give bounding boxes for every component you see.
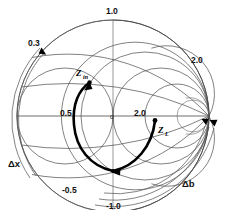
delta-b-label: Δb — [182, 178, 195, 189]
reactance-arc-0.3 — [22, 84, 209, 116]
trajectory-segment-bottom-to-input — [74, 83, 113, 171]
tick-label-2.0-right: 2.0 — [191, 55, 203, 65]
smith-chart-canvas: o 0.3 1.0 2.0 0.5 2.0 -0.5 -1.0 Z in Z L… — [0, 0, 230, 210]
z-l-label-subscript: L — [164, 131, 169, 137]
delta-b-arrowhead-outer — [210, 120, 218, 127]
tick-label-1.0: 1.0 — [106, 6, 118, 16]
reactance-arc--0.3 — [22, 116, 209, 148]
load-impedance-point-marker — [153, 118, 158, 123]
trajectory-segment-load-to-bottom — [113, 121, 155, 171]
z-l-label-base: Z — [157, 125, 164, 135]
tick-labels-group: 0.3 1.0 2.0 0.5 2.0 -0.5 -1.0 — [28, 6, 203, 210]
delta-x-label: Δx — [8, 158, 21, 169]
tick-label-0.3: 0.3 — [28, 38, 40, 48]
bottom-vertex-marker — [111, 169, 115, 173]
z-in-label-base: Z — [75, 68, 82, 78]
reactance-arc-0.5 — [32, 54, 209, 116]
tick-label--0.5: -0.5 — [62, 185, 77, 195]
z-in-label-subscript: in — [83, 74, 89, 80]
susceptance-arc--1.0 — [17, 116, 113, 210]
tick-label-2.0-mid: 2.0 — [134, 108, 146, 118]
origin-label: o — [110, 112, 114, 121]
smith-chart-figure: o 0.3 1.0 2.0 0.5 2.0 -0.5 -1.0 Z in Z L… — [0, 0, 230, 210]
origin-group: o — [110, 112, 114, 121]
tick-label-0.5: 0.5 — [60, 108, 72, 118]
tick-label--1.0: -1.0 — [106, 201, 121, 210]
input-impedance-point-marker — [87, 80, 91, 84]
